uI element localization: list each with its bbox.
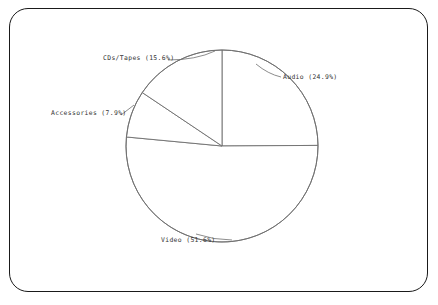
pie-slice-audio[interactable] bbox=[222, 50, 318, 146]
pie-label-video: Video (51.6%) bbox=[161, 237, 216, 243]
pie-slice-video[interactable] bbox=[126, 137, 318, 242]
pie-chart-graphic bbox=[0, 0, 438, 305]
pie-chart: Audio (24.9%) CDs/Tapes (15.6%) Accessor… bbox=[0, 0, 438, 305]
pie-label-accessories: Accessories (7.9%) bbox=[51, 110, 127, 116]
pie-label-audio: Audio (24.9%) bbox=[283, 74, 338, 80]
chart-page: Audio (24.9%) CDs/Tapes (15.6%) Accessor… bbox=[0, 0, 438, 305]
pie-label-cds-tapes: CDs/Tapes (15.6%) bbox=[103, 55, 174, 61]
